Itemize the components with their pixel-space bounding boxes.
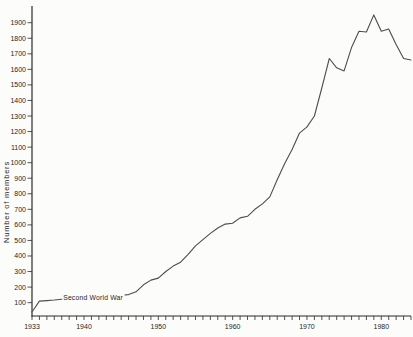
y-tick-label: 300 — [14, 268, 26, 275]
x-tick-label: 1980 — [373, 323, 389, 330]
y-tick-label: 1800 — [10, 35, 26, 42]
y-tick-label: 1700 — [10, 50, 26, 57]
members-series-line — [32, 15, 411, 312]
y-tick-label: 1000 — [10, 159, 26, 166]
y-tick-label: 1500 — [10, 81, 26, 88]
line-chart: 1002003004005006007008009001000110012001… — [0, 0, 413, 337]
y-tick-label: 900 — [14, 175, 26, 182]
y-tick-label: 500 — [14, 237, 26, 244]
y-tick-label: 400 — [14, 252, 26, 259]
y-tick-label: 700 — [14, 206, 26, 213]
annotation-second-world-war: Second World War — [63, 294, 123, 301]
y-axis-title: Number of members — [2, 161, 11, 243]
membership-line-chart-figure: 1002003004005006007008009001000110012001… — [0, 0, 413, 337]
x-tick-label: 1940 — [76, 323, 92, 330]
x-tick-label: 1933 — [24, 323, 40, 330]
y-tick-label: 600 — [14, 221, 26, 228]
y-tick-label: 800 — [14, 190, 26, 197]
x-tick-label: 1950 — [151, 323, 167, 330]
x-tick-label: 1970 — [299, 323, 315, 330]
y-tick-label: 1200 — [10, 128, 26, 135]
y-tick-label: 1100 — [11, 144, 26, 151]
y-tick-label: 1400 — [10, 97, 26, 104]
y-tick-label: 100 — [14, 299, 26, 306]
y-tick-label: 200 — [14, 284, 26, 291]
y-tick-label: 1300 — [10, 113, 26, 120]
y-tick-label: 1900 — [10, 19, 26, 26]
x-tick-label: 1960 — [225, 323, 241, 330]
y-tick-label: 1600 — [10, 66, 26, 73]
